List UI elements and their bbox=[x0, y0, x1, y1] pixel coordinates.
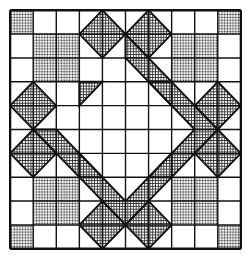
dotted-square bbox=[33, 177, 56, 201]
dotted-square bbox=[33, 201, 56, 225]
dotted-square bbox=[172, 58, 195, 82]
dotted-square bbox=[195, 177, 218, 201]
dotted-square bbox=[56, 177, 79, 201]
dotted-square bbox=[218, 225, 241, 249]
dotted-square bbox=[172, 177, 195, 201]
quilt-diagram bbox=[9, 9, 242, 250]
dotted-square bbox=[56, 201, 79, 225]
dotted-square bbox=[56, 58, 79, 82]
dotted-square bbox=[33, 34, 56, 58]
dotted-square bbox=[195, 201, 218, 225]
dotted-square bbox=[10, 10, 33, 34]
dotted-square bbox=[195, 34, 218, 58]
dotted-square bbox=[172, 201, 195, 225]
dotted-square bbox=[56, 34, 79, 58]
dotted-square bbox=[10, 225, 33, 249]
dotted-square bbox=[33, 58, 56, 82]
dotted-square bbox=[195, 58, 218, 82]
dotted-square bbox=[218, 10, 241, 34]
dotted-square bbox=[172, 34, 195, 58]
